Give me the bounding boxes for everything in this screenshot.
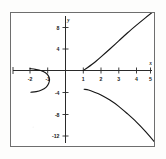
x-tick-label-1: 1 bbox=[82, 76, 85, 82]
curve-lower-right-branch bbox=[84, 89, 154, 146]
x-tick-label-3: 3 bbox=[117, 76, 120, 82]
graph-canvas: -2 -1 1 2 3 4 5 8 4 -4 -8 -12 x y bbox=[11, 13, 154, 146]
y-tick-label-4: 4 bbox=[57, 46, 60, 52]
x-tick-label-5: 5 bbox=[149, 76, 152, 82]
y-tick-label-8: 8 bbox=[57, 25, 60, 31]
plot-frame: -2 -1 1 2 3 4 5 8 4 -4 -8 -12 x y bbox=[10, 12, 155, 147]
y-axis-label: y bbox=[66, 17, 70, 23]
y-tick-label--8: -8 bbox=[55, 112, 60, 118]
x-tick-label--2: -2 bbox=[28, 76, 33, 82]
x-tick-label-4: 4 bbox=[135, 76, 138, 82]
x-axis-label: x bbox=[148, 60, 152, 66]
y-tick-label--12: -12 bbox=[52, 133, 60, 139]
x-tick-label-2: 2 bbox=[100, 76, 103, 82]
y-tick-label--4: -4 bbox=[55, 90, 60, 96]
curve-upper-right-branch bbox=[83, 13, 154, 71]
figure-root: -2 -1 1 2 3 4 5 8 4 -4 -8 -12 x y bbox=[0, 0, 166, 159]
